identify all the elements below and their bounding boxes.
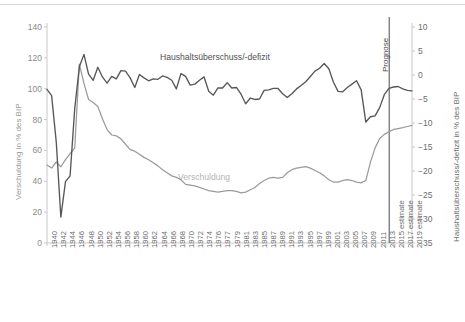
x-tick-label: 1954 bbox=[114, 231, 123, 248]
x-tick-label: 2015 estimate bbox=[397, 200, 406, 248]
x-tick-label: 1964 bbox=[160, 231, 169, 248]
x-tick-label: 1995 bbox=[306, 231, 315, 248]
x-tick-label: 1946 bbox=[77, 231, 86, 248]
left-tick-label: 20 bbox=[18, 207, 42, 217]
x-tick-label: 1940 bbox=[50, 231, 59, 248]
x-tick-label: 1948 bbox=[87, 231, 96, 248]
right-tick-label: −10 bbox=[418, 118, 432, 128]
x-tick-label: 1979 bbox=[233, 231, 242, 248]
x-tick-label: 1970 bbox=[187, 231, 196, 248]
x-tick-label: 2017 estimate bbox=[406, 200, 415, 248]
x-tick-label: 1983 bbox=[251, 231, 260, 248]
x-tick-label: 1960 bbox=[141, 231, 150, 248]
x-tick-label: 1972 bbox=[196, 231, 205, 248]
series-line-haushaltssaldo bbox=[47, 54, 412, 217]
x-tick-label: 1999 bbox=[324, 231, 333, 248]
right-tick-label: 0 bbox=[418, 70, 423, 80]
x-tick-label: 1987 bbox=[269, 231, 278, 248]
x-tick-label: 1985 bbox=[260, 231, 269, 248]
right-tick-label: 5 bbox=[418, 46, 423, 56]
right-tick-label: −20 bbox=[418, 166, 432, 176]
x-tick-label: 2005 bbox=[351, 231, 360, 248]
chart-canvas bbox=[0, 0, 465, 322]
x-tick-label: 2007 bbox=[360, 231, 369, 248]
x-tick-label: 2019 estimate bbox=[415, 200, 424, 248]
x-tick-label: 1993 bbox=[296, 231, 305, 248]
x-tick-label: 1952 bbox=[105, 231, 114, 248]
x-tick-label: 1958 bbox=[132, 231, 141, 248]
x-tick-label: 1989 bbox=[278, 231, 287, 248]
x-tick-label: 1956 bbox=[123, 231, 132, 248]
left-tick-label: 140 bbox=[18, 22, 42, 32]
x-tick-label: 1968 bbox=[178, 231, 187, 248]
left-tick-label: 100 bbox=[18, 84, 42, 94]
left-tick-label: 40 bbox=[18, 176, 42, 186]
right-tick-label: −25 bbox=[418, 190, 432, 200]
x-tick-label: 1966 bbox=[169, 231, 178, 248]
x-tick-label: 1976 bbox=[214, 231, 223, 248]
chart-figure: Verschuldung in % des BIP Haushaltsübers… bbox=[0, 0, 465, 322]
x-tick-label: 1977 bbox=[223, 231, 232, 248]
x-tick-label: 1974 bbox=[205, 231, 214, 248]
x-tick-label: 2009 bbox=[369, 231, 378, 248]
x-tick-label: 1997 bbox=[315, 231, 324, 248]
right-tick-label: 10 bbox=[418, 22, 427, 32]
right-tick-label: −15 bbox=[418, 142, 432, 152]
right-tick-label: −5 bbox=[418, 94, 428, 104]
x-tick-label: 2011 bbox=[379, 232, 388, 248]
x-tick-label: 1950 bbox=[96, 231, 105, 248]
x-tick-label: 1962 bbox=[150, 231, 159, 248]
x-tick-label: 2003 bbox=[342, 231, 351, 248]
x-tick-label: 2013 bbox=[388, 231, 397, 248]
x-tick-label: 1944 bbox=[68, 231, 77, 248]
x-tick-label: 1991 bbox=[287, 231, 296, 248]
left-tick-label: 120 bbox=[18, 53, 42, 63]
x-tick-label: 2001 bbox=[333, 231, 342, 248]
x-tick-label: 1942 bbox=[59, 231, 68, 248]
left-tick-label: 0 bbox=[18, 238, 42, 248]
x-tick-label: 1981 bbox=[242, 231, 251, 248]
left-tick-label: 80 bbox=[18, 115, 42, 125]
left-tick-label: 60 bbox=[18, 145, 42, 155]
